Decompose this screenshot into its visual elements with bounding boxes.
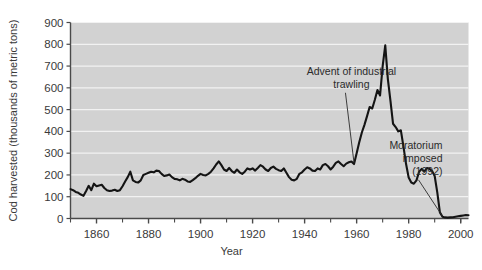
y-tick-label: 500 [44,104,63,116]
y-tick-label: 300 [44,147,63,159]
y-tick-label: 600 [44,82,63,94]
x-axis-title: Year [220,245,243,257]
x-tick-label: 1900 [188,228,214,240]
x-tick-label: 1920 [240,228,266,240]
cod-harvest-chart: 0100200300400500600700800900 18601880190… [0,0,482,270]
y-axis-title: Cod harvested (thousands of metric tons) [7,20,19,222]
y-tick-label: 700 [44,60,63,72]
x-tick-label: 1880 [136,228,162,240]
y-tick-label: 400 [44,125,63,137]
plot-background [71,23,469,219]
y-tick-label: 200 [44,169,63,181]
x-tick-label: 1940 [292,228,318,240]
x-tick-label: 2000 [448,228,474,240]
x-tick-label: 1960 [344,228,370,240]
y-tick-label: 100 [44,191,63,203]
y-tick-label: 900 [44,17,63,29]
y-tick-label: 800 [44,38,63,50]
chart-canvas: 0100200300400500600700800900 18601880190… [0,0,482,270]
x-tick-label: 1860 [84,228,110,240]
y-tick-label: 0 [57,213,63,225]
x-tick-label: 1980 [396,228,422,240]
